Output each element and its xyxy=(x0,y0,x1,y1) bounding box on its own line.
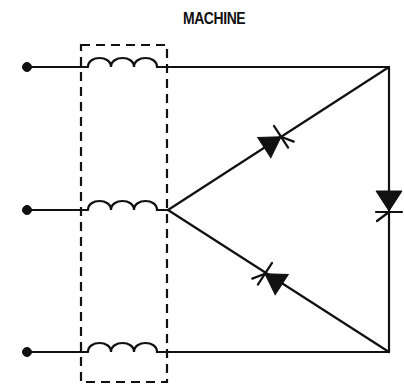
thyristor-1-icon xyxy=(257,121,295,158)
winding-1-icon xyxy=(88,58,162,67)
winding-2-icon xyxy=(88,201,168,210)
phase-2 xyxy=(23,201,169,215)
phase-3 xyxy=(23,343,390,357)
phase-1 xyxy=(23,58,390,72)
circuit-diagram xyxy=(0,0,404,386)
machine-boundary xyxy=(81,45,167,382)
winding-3-icon xyxy=(88,343,162,352)
thyristor-3-icon xyxy=(251,258,289,295)
